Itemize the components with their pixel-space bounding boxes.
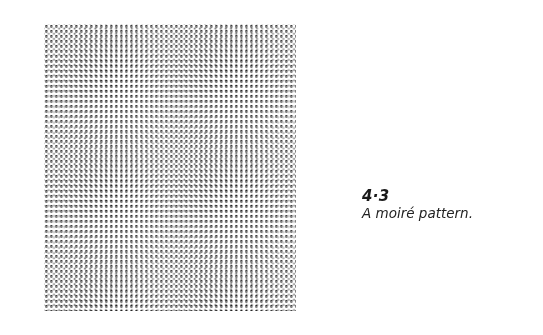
caption-text: A moiré pattern. [362,205,473,222]
figure-number: 4·3 [362,188,473,205]
moire-pattern-figure [44,24,296,311]
figure-caption: 4·3 A moiré pattern. [362,188,473,222]
grid-lines-overlay [44,24,296,311]
